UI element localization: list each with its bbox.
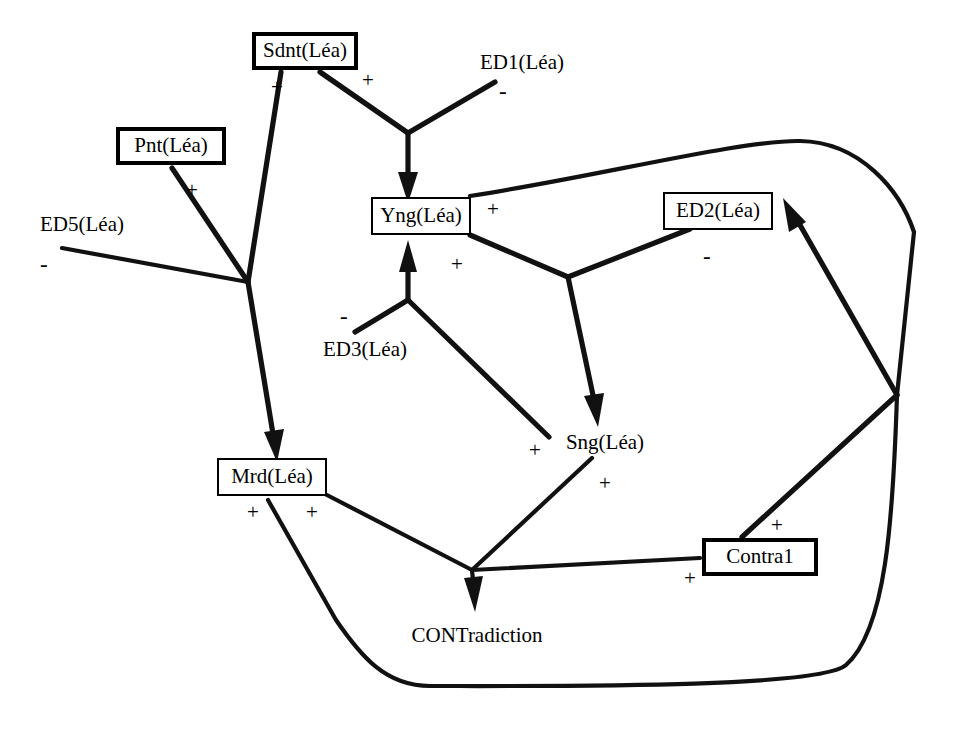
edge-sng-to-yng-junction <box>408 300 549 437</box>
edge-pnt-to-left-junction <box>172 168 248 282</box>
node-yng[interactable]: Yng(Léa) <box>371 197 471 235</box>
edge-left-junction-to-mrd <box>248 282 274 440</box>
diagram-edges-layer <box>0 0 953 729</box>
node-mrd-label: Mrd(Léa) <box>231 466 313 487</box>
sign-sdnt-yng: + <box>362 70 374 91</box>
sign-contra1-ed2: + <box>771 515 783 536</box>
node-mrd[interactable]: Mrd(Léa) <box>217 458 327 496</box>
node-ed3-label: ED3(Léa) <box>323 339 407 360</box>
node-yng-label: Yng(Léa) <box>380 205 462 226</box>
node-pnt[interactable]: Pnt(Léa) <box>116 127 226 165</box>
edge-sdnt-to-left-junction <box>248 72 281 282</box>
node-ed5[interactable]: ED5(Léa) <box>30 210 134 238</box>
sign-yng-sng: + <box>451 254 463 275</box>
sign-mrd-contradiction: + <box>306 502 318 523</box>
edge-sng-to-contradiction-junction <box>472 458 592 570</box>
node-contradiction[interactable]: CONTradiction <box>401 621 553 649</box>
edge-ed3-to-yng-junction <box>355 300 408 332</box>
sign-pnt-mrd: + <box>186 180 198 201</box>
sign-contra1-contradiction: + <box>684 568 696 589</box>
node-pnt-label: Pnt(Léa) <box>134 135 207 156</box>
node-sdnt-label: Sdnt(Léa) <box>263 40 347 61</box>
edge-right-junction-to-contra1 <box>742 395 897 537</box>
node-contradiction-label: CONTradiction <box>411 625 542 646</box>
node-ed1[interactable]: ED1(Léa) <box>470 48 574 76</box>
edge-ed5-to-left-junction <box>62 248 248 282</box>
sign-sng-yng: + <box>529 440 541 461</box>
sign-sng-contradiction: + <box>599 473 611 494</box>
edge-contra1-to-contradiction-junction <box>472 558 700 570</box>
edge-right-junction-to-ed2 <box>796 218 897 395</box>
arrowhead-to-sng <box>584 393 604 427</box>
node-ed5-label: ED5(Léa) <box>40 214 124 235</box>
node-ed2[interactable]: ED2(Léa) <box>663 192 773 230</box>
node-contra1-label: Contra1 <box>726 546 794 567</box>
node-sng-label: Sng(Léa) <box>566 432 644 453</box>
sign-ed3-yng: - <box>340 305 348 328</box>
node-sng[interactable]: Sng(Léa) <box>556 428 654 456</box>
edge-mrd-to-contradiction-junction <box>325 494 472 570</box>
sign-yng-right-loop: + <box>487 199 499 220</box>
node-ed1-label: ED1(Léa) <box>480 52 564 73</box>
sign-ed5-mrd: - <box>40 253 48 276</box>
arrowhead-to-yng-bottom <box>399 240 417 272</box>
sign-sdnt-mrd: + <box>271 77 283 98</box>
node-sdnt[interactable]: Sdnt(Léa) <box>252 32 358 70</box>
sign-ed1-yng: - <box>499 80 507 103</box>
sign-ed2-sng: - <box>703 245 711 268</box>
node-contra1[interactable]: Contra1 <box>702 538 818 576</box>
edge-ed1-to-yng <box>408 82 495 133</box>
edge-yng-to-sng-junction <box>470 235 568 277</box>
sign-mrd-bottom-loop: + <box>247 502 259 523</box>
edge-sng-junction-to-sng <box>568 277 594 400</box>
edge-ed2-to-sng-junction <box>568 229 690 277</box>
edge-yng-to-right-loop <box>470 141 914 395</box>
arrowhead-to-contradiction <box>464 576 483 612</box>
diagram-canvas: Sdnt(Léa) ED1(Léa) Pnt(Léa) ED5(Léa) Yng… <box>0 0 953 729</box>
node-ed3[interactable]: ED3(Léa) <box>313 335 417 363</box>
node-ed2-label: ED2(Léa) <box>676 200 760 221</box>
